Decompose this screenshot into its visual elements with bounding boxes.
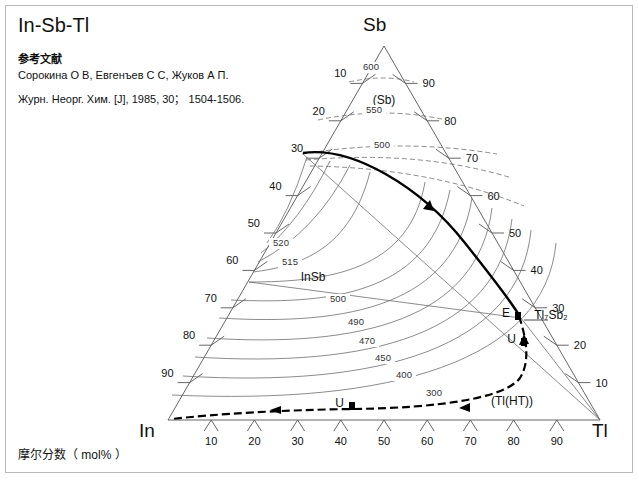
svg-text:90: 90 <box>551 435 563 447</box>
svg-text:10: 10 <box>205 435 217 447</box>
svg-text:10: 10 <box>595 377 607 389</box>
phase-field-label: (Tl(HT)) <box>491 394 533 408</box>
phase-diagram-page: In-Sb-Tl 参考文献 Сорокина О В, Евгенъев С С… <box>0 0 639 480</box>
isotherm-curves <box>172 78 600 420</box>
invariant-point-marker <box>349 402 355 410</box>
svg-text:80: 80 <box>444 115 456 127</box>
invariant-point-label: U <box>507 332 516 346</box>
ternary-diagram: 1020304050607080909080706050403020101020… <box>0 0 639 480</box>
isotherm-label: 490 <box>348 316 364 327</box>
svg-text:40: 40 <box>335 435 347 447</box>
invariant-point-label: U <box>335 396 344 410</box>
svg-text:50: 50 <box>248 217 260 229</box>
svg-text:20: 20 <box>313 105 325 117</box>
svg-text:80: 80 <box>183 329 195 341</box>
svg-text:40: 40 <box>531 264 543 276</box>
svg-text:60: 60 <box>226 254 238 266</box>
svg-text:10: 10 <box>334 67 346 79</box>
svg-text:50: 50 <box>378 435 390 447</box>
svg-text:30: 30 <box>291 435 303 447</box>
isotherm-label: 300 <box>426 387 442 398</box>
isotherm-label: 515 <box>282 256 298 267</box>
isotherm-label: 450 <box>375 352 391 363</box>
svg-text:70: 70 <box>205 292 217 304</box>
invariant-point-marker <box>515 312 521 320</box>
isotherm-label: 550 <box>366 104 382 115</box>
isotherm-label: 400 <box>396 369 412 380</box>
svg-text:40: 40 <box>269 180 281 192</box>
svg-text:90: 90 <box>161 367 173 379</box>
svg-text:70: 70 <box>466 152 478 164</box>
svg-text:20: 20 <box>574 339 586 351</box>
svg-text:30: 30 <box>291 142 303 154</box>
isotherm-labels: 600550500520515500490470450400300 <box>269 61 446 399</box>
isotherm-label: 470 <box>359 335 375 346</box>
svg-text:80: 80 <box>507 435 519 447</box>
invariant-point-label: E <box>502 306 510 320</box>
isotherm-label: 520 <box>273 237 289 248</box>
isotherm-label: 500 <box>374 139 390 150</box>
invariant-point-marker <box>521 338 527 346</box>
isotherm-label: 600 <box>363 61 379 72</box>
svg-text:20: 20 <box>248 435 260 447</box>
svg-text:60: 60 <box>487 190 499 202</box>
svg-text:90: 90 <box>423 77 435 89</box>
svg-text:60: 60 <box>421 435 433 447</box>
isotherm-label: 500 <box>330 293 346 304</box>
svg-text:70: 70 <box>464 435 476 447</box>
axis-ticks: 1020304050607080909080706050403020101020… <box>161 67 607 447</box>
phase-field-label: InSb <box>301 270 326 284</box>
